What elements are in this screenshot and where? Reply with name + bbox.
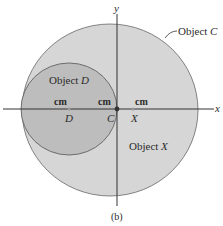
cm-dot-c	[115, 107, 120, 112]
object-c-leader	[165, 31, 177, 38]
cm-dot-d	[67, 107, 70, 110]
y-axis-label: y	[113, 2, 119, 14]
point-d-label: D	[64, 112, 73, 124]
cm-label-c: cm	[98, 96, 111, 107]
object-c-label: Object C	[178, 25, 218, 37]
point-x-label: X	[130, 112, 139, 124]
point-c-label: C	[107, 112, 115, 124]
center-of-mass-diagram: x y Object C Object D Object X cm cm cm …	[0, 0, 223, 226]
figure-caption: (b)	[111, 211, 123, 223]
object-x-label: Object X	[129, 140, 169, 152]
x-axis-label: x	[214, 102, 220, 114]
cm-label-x: cm	[135, 96, 148, 107]
object-d-label: Object D	[49, 74, 89, 86]
cm-dot-x	[131, 107, 134, 110]
cm-label-d: cm	[54, 96, 67, 107]
